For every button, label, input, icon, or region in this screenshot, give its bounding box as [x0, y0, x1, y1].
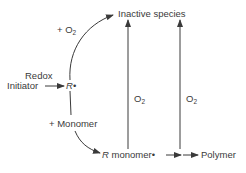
label-plus-o2-subscript: 2	[73, 29, 77, 36]
label-plus-monomer: + Monomer	[49, 119, 97, 129]
node-polymer: Polymer	[201, 150, 236, 160]
node-radical-r: R	[66, 80, 73, 91]
label-o2-left: O2	[134, 94, 145, 104]
node-radical-dot: •	[73, 80, 76, 91]
node-r-monomer-text: monomer•	[109, 149, 155, 160]
label-plus-o2: + O2	[57, 25, 76, 35]
label-o2-right-subscript: 2	[193, 98, 197, 105]
arrow-to-r-monomer	[75, 131, 100, 153]
node-radical: R•	[66, 81, 76, 91]
label-o2-right: O2	[186, 94, 197, 104]
node-r-monomer-r: R	[102, 149, 109, 160]
node-inactive-species: Inactive species	[118, 9, 186, 19]
node-initiator: Initiator	[7, 81, 38, 91]
arrow-radical-to-inactive	[70, 15, 113, 80]
label-plus-o2-text: + O	[57, 24, 73, 35]
label-o2-left-subscript: 2	[141, 98, 145, 105]
node-r-monomer: R monomer•	[102, 150, 155, 160]
line-radical-down	[70, 91, 71, 115]
